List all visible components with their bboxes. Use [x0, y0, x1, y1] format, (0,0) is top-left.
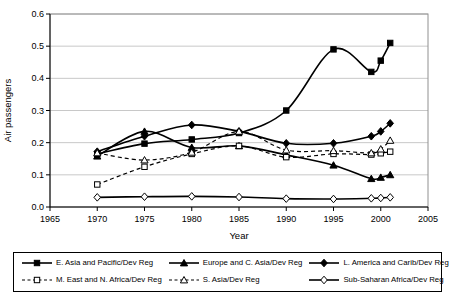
- y-tick-label: 0.5: [31, 41, 44, 51]
- legend-label: L. America and Carib/Dev Reg: [343, 258, 448, 268]
- legend-label: S. Asia/Dev Reg: [203, 275, 260, 285]
- legend-item-e-asia-and-pacific-dev-reg: E. Asia and Pacific/Dev Reg: [21, 258, 162, 268]
- x-tick-label: 1995: [323, 214, 343, 224]
- plot-area: 0.00.10.20.30.40.50.61965197019751980198…: [0, 0, 455, 250]
- diamond-open-marker-icon: [141, 193, 148, 201]
- diamond-open-marker-icon: [368, 195, 375, 203]
- x-tick-label: 1990: [276, 214, 296, 224]
- legend-label: Sub-Saharan Africa/Dev Reg: [343, 275, 443, 285]
- legend-line-sample: [168, 258, 200, 268]
- series-sub-saharan-africa-dev-reg: [94, 193, 394, 203]
- x-tick-label: 1985: [229, 214, 249, 224]
- square-open-marker-icon: [95, 182, 100, 187]
- square-filled-marker-icon: [331, 47, 336, 52]
- square-filled-marker-icon: [142, 141, 147, 146]
- square-filled-marker-icon: [189, 137, 194, 142]
- legend-item-europe-and-c-asia-dev-reg: Europe and C. Asia/Dev Reg: [168, 258, 303, 268]
- square-filled-marker-icon: [378, 58, 383, 63]
- legend-line-sample: [308, 258, 340, 268]
- y-tick-label: 0.4: [31, 73, 44, 83]
- legend-line-sample: [21, 258, 53, 268]
- y-tick-label: 0.1: [31, 170, 44, 180]
- series-line: [97, 131, 390, 179]
- diamond-open-marker-icon: [387, 194, 394, 202]
- series-e-asia-and-pacific-dev-reg: [95, 40, 393, 156]
- legend-line-sample: [308, 275, 340, 285]
- x-tick-label: 1970: [87, 214, 107, 224]
- legend-label: Europe and C. Asia/Dev Reg: [203, 258, 303, 268]
- triangle-open-marker-icon: [387, 137, 394, 143]
- triangle-open-marker-icon: [377, 146, 384, 152]
- square-open-marker-icon: [236, 143, 241, 148]
- diamond-open-marker-icon: [330, 195, 337, 203]
- square-filled-marker-icon: [284, 108, 289, 113]
- line-chart: 0.00.10.20.30.40.50.61965197019751980198…: [0, 0, 455, 250]
- y-tick-label: 0.2: [31, 138, 44, 148]
- diamond-filled-marker-icon: [330, 140, 337, 148]
- x-tick-label: 2005: [418, 214, 438, 224]
- legend-item-s-asia-dev-reg: S. Asia/Dev Reg: [168, 275, 303, 285]
- x-tick-label: 1975: [134, 214, 154, 224]
- legend-line-sample: [168, 275, 200, 285]
- diamond-open-marker-icon: [321, 276, 328, 284]
- diamond-open-marker-icon: [377, 194, 384, 202]
- legend-item-sub-saharan-africa-dev-reg: Sub-Saharan Africa/Dev Reg: [308, 275, 448, 285]
- square-filled-marker-icon: [34, 260, 39, 265]
- legend-item-l-america-and-carib-dev-reg: L. America and Carib/Dev Reg: [308, 258, 448, 268]
- series-europe-and-c-asia-dev-reg: [94, 128, 394, 182]
- diamond-filled-marker-icon: [188, 121, 195, 129]
- diamond-open-marker-icon: [283, 195, 290, 203]
- diamond-filled-marker-icon: [321, 259, 328, 267]
- square-filled-marker-icon: [388, 40, 393, 45]
- series-l-america-and-carib-dev-reg: [94, 120, 394, 156]
- square-open-marker-icon: [142, 164, 147, 169]
- diamond-open-marker-icon: [188, 193, 195, 201]
- y-axis-label: Air passengers: [2, 79, 13, 143]
- diamond-open-marker-icon: [94, 194, 101, 202]
- y-tick-label: 0.3: [31, 106, 44, 116]
- diamond-filled-marker-icon: [368, 132, 375, 140]
- square-open-marker-icon: [34, 277, 39, 282]
- chart-figure: 0.00.10.20.30.40.50.61965197019751980198…: [0, 0, 455, 304]
- legend-item-m-east-and-n-africa-dev-reg: M. East and N. Africa/Dev Reg: [21, 275, 162, 285]
- x-tick-label: 1965: [40, 214, 60, 224]
- square-open-marker-icon: [284, 154, 289, 159]
- y-tick-label: 0.6: [31, 9, 44, 19]
- series-m-east-and-n-africa-dev-reg: [95, 143, 393, 187]
- x-tick-label: 2000: [371, 214, 391, 224]
- x-axis-label: Year: [229, 230, 248, 241]
- series-line: [97, 123, 390, 151]
- legend: E. Asia and Pacific/Dev RegEurope and C.…: [13, 252, 442, 292]
- square-filled-marker-icon: [369, 69, 374, 74]
- legend-label: E. Asia and Pacific/Dev Reg: [56, 258, 153, 268]
- legend-line-sample: [21, 275, 53, 285]
- square-open-marker-icon: [388, 149, 393, 154]
- y-tick-label: 0.0: [31, 202, 44, 212]
- diamond-open-marker-icon: [236, 193, 243, 201]
- x-tick-label: 1980: [182, 214, 202, 224]
- legend-label: M. East and N. Africa/Dev Reg: [56, 275, 162, 285]
